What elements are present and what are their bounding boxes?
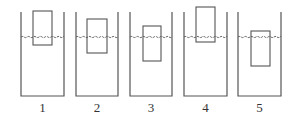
beaker-label: 1 — [39, 100, 46, 115]
beaker-outline — [238, 12, 281, 96]
floating-block — [33, 11, 52, 45]
beaker-label: 5 — [256, 100, 263, 115]
water-surface — [130, 36, 172, 37]
beaker-4: 4 — [184, 7, 227, 115]
beaker-label: 4 — [202, 100, 209, 115]
floating-block — [251, 31, 270, 66]
beaker-label: 3 — [148, 100, 155, 115]
water-surface — [76, 36, 118, 37]
water-surface — [184, 36, 227, 37]
floating-block — [143, 26, 161, 61]
beaker-outline — [130, 12, 172, 96]
water-surface — [238, 36, 281, 37]
beaker-5: 5 — [238, 12, 281, 115]
beaker-label: 2 — [94, 100, 101, 115]
beaker-2: 2 — [76, 12, 118, 115]
floating-block — [87, 19, 107, 53]
beaker-outline — [76, 12, 118, 96]
beaker-outline — [184, 12, 227, 96]
beaker-outline — [21, 12, 64, 96]
buoyancy-diagram: 12345 — [0, 0, 296, 115]
beaker-3: 3 — [130, 12, 172, 115]
water-surface — [21, 36, 64, 37]
beaker-1: 1 — [21, 11, 64, 115]
